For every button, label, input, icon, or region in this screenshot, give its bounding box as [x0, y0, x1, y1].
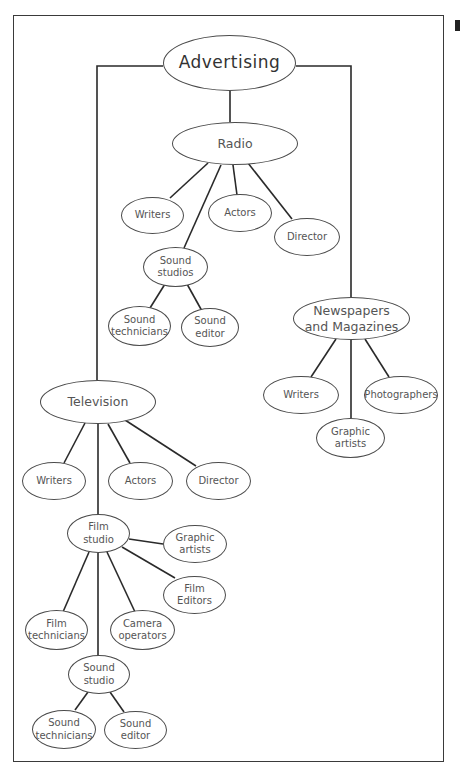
node-tv-actors: Actors — [108, 462, 173, 500]
node-advertising: Advertising — [163, 35, 296, 91]
node-radio-director: Director — [274, 218, 340, 256]
node-newspapers-graphic-artists: Graphic artists — [316, 418, 385, 458]
node-radio: Radio — [172, 122, 298, 165]
advertising-career-diagram: Advertising Radio Writers Actors Directo… — [0, 0, 460, 771]
node-radio-sound-technicians: Sound technicians — [108, 306, 171, 346]
node-tv-film-editors: Film Editors — [163, 576, 226, 614]
node-tv-writers: Writers — [22, 462, 86, 500]
node-newspapers-writers: Writers — [263, 376, 339, 414]
node-tv-sound-technicians: Sound technicians — [32, 710, 96, 749]
node-tv-film-studio: Film studio — [67, 514, 130, 553]
node-tv-director: Director — [186, 462, 251, 500]
node-radio-sound-editor: Sound editor — [181, 308, 239, 347]
node-tv-sound-studio: Sound studio — [68, 655, 130, 694]
node-newspapers-photographers: Photographers — [364, 376, 438, 414]
node-television: Television — [40, 380, 156, 424]
node-tv-graphic-artists: Graphic artists — [163, 525, 227, 563]
node-newspapers-magazines: Newspapers and Magazines — [293, 297, 410, 340]
node-tv-sound-editor: Sound editor — [104, 711, 167, 749]
node-radio-actors: Actors — [208, 194, 272, 232]
node-tv-camera-operators: Camera operators — [110, 610, 175, 650]
node-radio-writers: Writers — [121, 197, 184, 234]
node-radio-sound-studios: Sound studios — [143, 247, 208, 287]
node-tv-film-technicians: Film technicians — [25, 610, 88, 650]
